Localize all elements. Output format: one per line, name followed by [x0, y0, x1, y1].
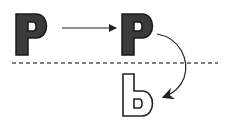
- reflected-letter-b: [123, 74, 153, 116]
- translated-letter-p: [122, 14, 153, 55]
- transformation-diagram: [0, 0, 226, 124]
- original-letter-p: [16, 14, 47, 55]
- reflection-arrow: [157, 34, 186, 97]
